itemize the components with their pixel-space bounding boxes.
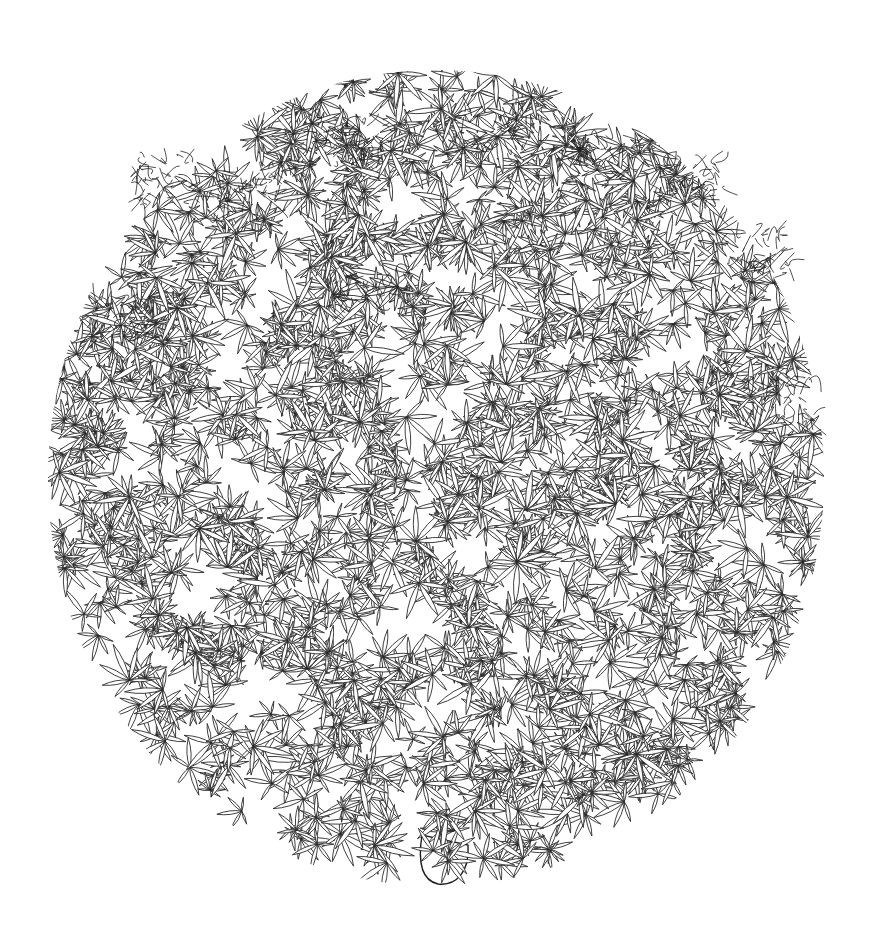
leaf [271,231,307,269]
leaf [758,286,814,342]
leaf [221,310,264,354]
leaf [658,361,692,394]
leaf [147,170,187,211]
leaf [102,585,132,615]
leaf [217,797,247,828]
leaf [367,630,411,674]
leaf-mass [38,57,838,894]
leaf [431,57,468,93]
cannabis-sphere-illustration [0,0,872,936]
leaf [604,566,638,600]
